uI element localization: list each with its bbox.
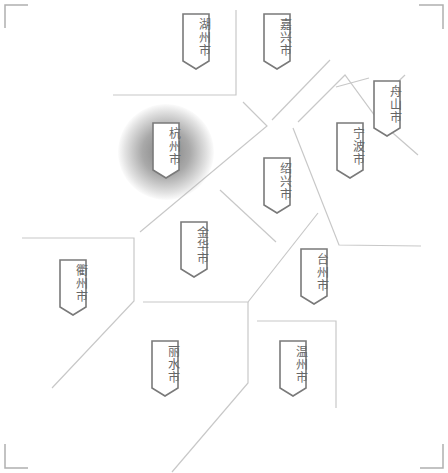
map-boundaries xyxy=(0,0,448,473)
zhejiang-city-map: 湖州市 嘉兴市 舟山市 杭州市 宁波市 绍兴市 金华市 台州市 衢州市 丽水市 … xyxy=(0,0,448,473)
city-label: 温州市 xyxy=(279,345,307,384)
city-tag-quzhou[interactable]: 衢州市 xyxy=(59,259,87,317)
city-label: 丽水市 xyxy=(151,345,179,384)
city-label: 宁波市 xyxy=(336,127,364,166)
city-tag-wenzhou[interactable]: 温州市 xyxy=(279,340,307,398)
city-label: 杭州市 xyxy=(152,127,180,166)
city-tag-zhoushan[interactable]: 舟山市 xyxy=(373,80,401,138)
corner-bracket-top-right xyxy=(419,5,443,29)
city-tag-ningbo[interactable]: 宁波市 xyxy=(336,122,364,180)
city-label: 嘉兴市 xyxy=(263,18,291,57)
city-label: 衢州市 xyxy=(59,264,87,303)
city-label: 金华市 xyxy=(180,226,208,265)
city-label: 绍兴市 xyxy=(263,162,291,201)
city-tag-hangzhou[interactable]: 杭州市 xyxy=(152,122,180,180)
corner-bracket-top-left xyxy=(5,5,28,28)
city-tag-jinhua[interactable]: 金华市 xyxy=(180,221,208,279)
city-tag-shaoxing[interactable]: 绍兴市 xyxy=(263,157,291,215)
city-tag-jiaxing[interactable]: 嘉兴市 xyxy=(263,13,291,71)
city-label: 舟山市 xyxy=(373,85,401,124)
city-label: 台州市 xyxy=(300,253,328,292)
corner-bracket-bottom-left xyxy=(5,444,28,468)
city-tag-lishui[interactable]: 丽水市 xyxy=(151,340,179,398)
city-label: 湖州市 xyxy=(182,18,210,57)
city-tag-huzhou[interactable]: 湖州市 xyxy=(182,13,210,71)
city-tag-taizhou[interactable]: 台州市 xyxy=(300,248,328,306)
corner-bracket-bottom-right xyxy=(420,444,443,468)
